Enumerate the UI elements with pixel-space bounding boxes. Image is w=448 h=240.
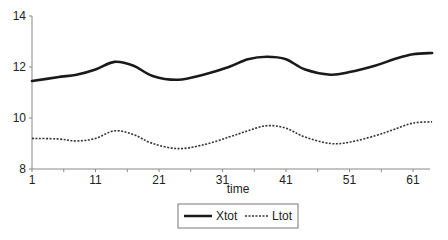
x-tick-label: 51: [343, 173, 357, 187]
x-tick-label: 61: [406, 173, 420, 187]
legend: Xtot Ltot: [178, 204, 298, 228]
y-tick-label: 14: [13, 9, 27, 23]
x-tick-label: 21: [152, 173, 166, 187]
y-tick-label: 12: [13, 60, 27, 74]
x-axis-label: time: [227, 182, 250, 196]
x-tick-label: 41: [279, 173, 293, 187]
plot-area: [32, 53, 432, 149]
axes: 81012141112131415161: [13, 9, 430, 187]
series-line-xtot: [32, 53, 432, 81]
x-tick-label: 11: [89, 173, 102, 187]
y-tick-label: 8: [19, 162, 26, 176]
series-line-ltot: [32, 122, 432, 149]
y-tick-label: 10: [13, 111, 27, 125]
x-tick-label: 1: [29, 173, 36, 187]
legend-label-ltot: Ltot: [272, 209, 293, 223]
line-chart: 81012141112131415161 time Xtot Ltot: [0, 0, 448, 240]
legend-label-xtot: Xtot: [216, 209, 238, 223]
